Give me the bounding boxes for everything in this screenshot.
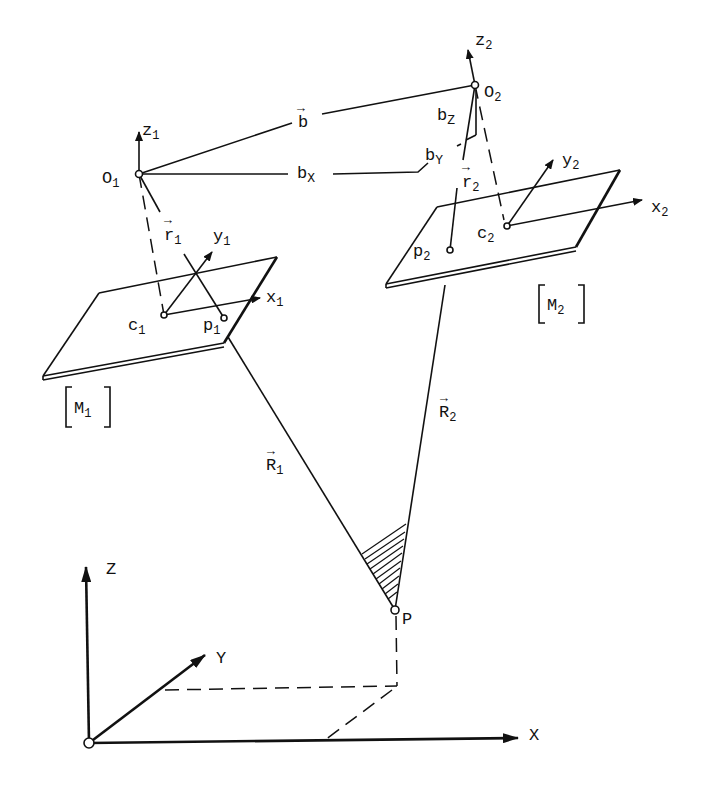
ray-R2 [395, 285, 445, 610]
label-R1: R1 [266, 456, 283, 478]
label-o2: O2 [484, 83, 501, 105]
label-bz: bZ [437, 106, 455, 128]
label-world-z: Z [106, 560, 116, 579]
label-y1: y1 [213, 227, 230, 249]
camera2-rays [395, 50, 504, 610]
label-bx: bX [297, 164, 315, 186]
label-world-x: X [529, 726, 539, 745]
c1-point [161, 312, 167, 318]
label-R2: R2 [439, 403, 456, 425]
world-x-axis-arrow [89, 738, 518, 743]
o1-point [136, 171, 143, 178]
label-b: b [298, 113, 308, 132]
z2-axis-arrow [468, 50, 475, 85]
label-r2: r2 [462, 173, 479, 195]
o2-point [472, 82, 479, 89]
world-origin-point [84, 738, 94, 748]
label-r1: r1 [164, 226, 181, 248]
world-y-axis-arrow [89, 655, 205, 743]
p-point [391, 606, 399, 614]
label-world-y: Y [216, 649, 226, 668]
label-o1: O1 [102, 169, 119, 191]
world-axes [86, 567, 518, 743]
label-by: bY [425, 146, 443, 168]
image-plane-m2 [386, 170, 620, 288]
y2-axis-arrow [507, 160, 553, 226]
label-m1-bracket: M1 [66, 387, 110, 427]
ray-R1 [228, 337, 395, 610]
p-projection-dashes [165, 616, 397, 740]
x2-axis-arrow [507, 200, 642, 226]
c2-point [504, 223, 510, 229]
stereo-geometry-diagram: z1 O1 → r1 y1 x1 c1 p1 M1 → b bX bY bZ z… [0, 0, 713, 791]
image-plane-m1 [43, 257, 277, 380]
label-c2: c2 [477, 224, 494, 246]
intersection-hatch [362, 524, 406, 599]
label-x2: x2 [651, 198, 668, 220]
p1-point [221, 315, 227, 321]
label-x1: x1 [266, 288, 283, 310]
svg-text:M2: M2 [547, 296, 564, 318]
label-p: P [402, 610, 412, 629]
label-z2: z2 [475, 31, 492, 53]
p2-point [447, 247, 453, 253]
label-p2: p2 [413, 242, 430, 264]
camera1-rays [139, 132, 395, 610]
svg-text:M1: M1 [74, 399, 91, 421]
world-z-axis-arrow [86, 567, 89, 743]
label-z1: z1 [142, 121, 159, 143]
label-y2: y2 [562, 151, 579, 173]
label-m2-bracket: M2 [539, 285, 584, 323]
